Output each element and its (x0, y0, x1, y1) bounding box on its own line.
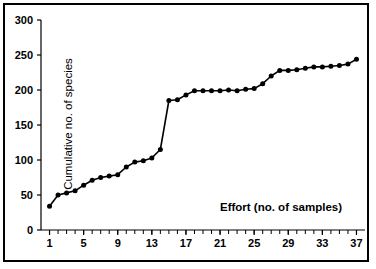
y-tick-label: 250 (7, 50, 33, 61)
data-point (277, 68, 282, 73)
y-axis-title-container: Cumulative no. of species (45, 23, 61, 173)
data-point (166, 98, 171, 103)
figure-frame: 050100150200250300 15913172125293337 Cum… (3, 3, 369, 262)
data-series-markers (47, 57, 359, 209)
x-tick-label: 25 (243, 238, 265, 249)
x-tick-label: 1 (39, 238, 61, 249)
data-point (354, 57, 359, 62)
data-point (269, 74, 274, 79)
data-point (226, 88, 231, 93)
data-point (98, 175, 103, 180)
y-tick-label: 200 (7, 85, 33, 96)
x-tick-label: 13 (141, 238, 163, 249)
data-point (320, 64, 325, 69)
data-point (243, 87, 248, 92)
data-point (235, 88, 240, 93)
data-point (201, 88, 206, 93)
chart-plot-area: 050100150200250300 15913172125293337 Cum… (5, 5, 367, 260)
data-point (218, 88, 223, 93)
y-tick-label: 0 (7, 225, 33, 236)
data-point (149, 155, 154, 160)
x-tick-label: 29 (277, 238, 299, 249)
data-point (337, 63, 342, 68)
y-tick-label: 300 (7, 15, 33, 26)
x-tick-label: 9 (107, 238, 129, 249)
data-point (294, 67, 299, 72)
data-point (192, 88, 197, 93)
data-point (141, 158, 146, 163)
data-series-line (50, 59, 357, 206)
x-axis-minor-ticks (50, 230, 357, 234)
data-point (107, 174, 112, 179)
data-point (175, 97, 180, 102)
data-point (252, 86, 257, 91)
axis-lines (41, 20, 365, 230)
data-point (81, 183, 86, 188)
data-point (56, 193, 61, 198)
data-point (47, 204, 52, 209)
data-point (132, 160, 137, 165)
data-point (260, 81, 265, 86)
data-point (303, 66, 308, 71)
y-tick-label: 150 (7, 120, 33, 131)
x-tick-label: 21 (209, 238, 231, 249)
y-tick-label: 100 (7, 155, 33, 166)
data-point (158, 147, 163, 152)
data-point (209, 88, 214, 93)
data-point (328, 64, 333, 69)
data-point (311, 64, 316, 69)
x-tick-label: 17 (175, 238, 197, 249)
x-tick-label: 33 (311, 238, 333, 249)
y-axis-title: Cumulative no. of species (62, 49, 74, 199)
data-point (183, 92, 188, 97)
data-point (124, 165, 129, 170)
data-point (115, 172, 120, 177)
x-axis-title: Effort (no. of samples) (220, 201, 342, 213)
data-point (90, 178, 95, 183)
data-point (345, 62, 350, 67)
data-point (286, 68, 291, 73)
x-tick-label: 37 (345, 238, 367, 249)
x-tick-label: 5 (73, 238, 95, 249)
y-tick-label: 50 (7, 190, 33, 201)
